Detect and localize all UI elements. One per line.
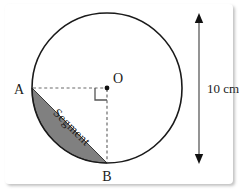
dimension-label-10cm: 10 cm [207,81,239,96]
figure-card: O A B Segment 10 cm [0,0,239,190]
point-label-a: A [14,82,25,97]
geometry-diagram: O A B Segment 10 cm [0,0,239,190]
center-point-dot [105,86,110,91]
point-label-b: B [102,169,111,184]
point-label-o: O [113,71,123,86]
